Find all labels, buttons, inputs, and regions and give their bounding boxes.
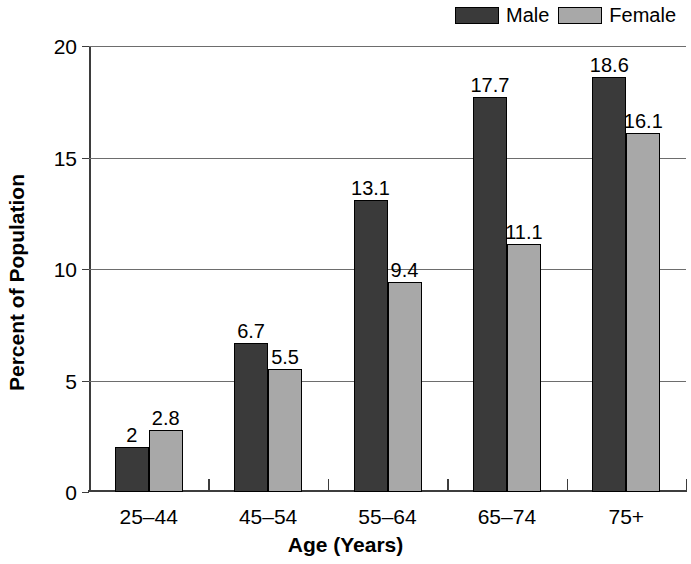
bar-value-label: 2.8 <box>152 408 180 428</box>
legend-swatch-male <box>455 7 499 24</box>
chart-legend: Male Female <box>455 4 676 26</box>
x-axis-tick <box>328 479 329 492</box>
bar-male-0: 2 <box>115 447 149 492</box>
bar-female-0: 2.8 <box>149 430 183 492</box>
bar-value-label: 11.1 <box>505 222 542 242</box>
bar-male-3: 17.7 <box>473 97 507 492</box>
bar-male-2: 13.1 <box>354 200 388 492</box>
x-axis-category-labels: 25–4445–5455–6465–7475+ <box>89 492 686 532</box>
plot-area: 05101520 22.86.75.513.19.417.711.118.616… <box>89 46 686 492</box>
x-axis-tick <box>686 479 687 492</box>
bar-value-label: 6.7 <box>237 321 265 341</box>
y-axis-tick-label: 10 <box>54 259 77 280</box>
bar-value-label: 9.4 <box>391 260 419 280</box>
y-axis-tick <box>82 269 89 270</box>
y-axis-tick-label: 15 <box>54 147 77 168</box>
y-axis-tick <box>82 381 89 382</box>
bar-male-4: 18.6 <box>592 77 626 492</box>
legend-swatch-female <box>558 7 602 24</box>
bar-value-label: 5.5 <box>271 347 299 367</box>
x-axis-title: Age (Years) <box>0 534 691 555</box>
x-axis-tick <box>567 479 568 492</box>
y-axis-tick <box>82 46 89 47</box>
y-axis-tick-label: 0 <box>65 482 77 503</box>
bar-female-1: 5.5 <box>268 369 302 492</box>
bar-value-label: 13.1 <box>351 178 390 198</box>
x-axis-tick <box>89 479 90 492</box>
x-axis-category-label: 55–64 <box>358 506 416 527</box>
x-axis-tick <box>208 479 209 492</box>
legend-entry-female: Female <box>558 5 676 25</box>
x-axis-category-label: 45–54 <box>239 506 297 527</box>
bar-value-label: 18.6 <box>590 55 629 75</box>
legend-label-male: Male <box>506 5 549 25</box>
bar-value-label: 17.7 <box>470 75 509 95</box>
x-axis-category-label: 65–74 <box>478 506 536 527</box>
bar-value-label: 2 <box>126 425 137 445</box>
y-axis-tick-label: 20 <box>54 36 77 57</box>
x-axis-category-label: 75+ <box>608 506 644 527</box>
y-axis-title-text: Percent of Population <box>6 173 27 390</box>
legend-entry-male: Male <box>455 5 549 25</box>
bar-chart: Male Female 05101520 22.86.75.513.19.417… <box>0 0 691 564</box>
x-axis-category-label: 25–44 <box>119 506 177 527</box>
y-axis-tick <box>82 158 89 159</box>
bar-female-3: 11.1 <box>507 244 541 492</box>
y-axis-tick-label: 5 <box>65 370 77 391</box>
y-axis-tick <box>82 492 89 493</box>
legend-label-female: Female <box>609 5 676 25</box>
x-axis-tick <box>447 479 448 492</box>
gridline <box>89 46 686 47</box>
bar-male-1: 6.7 <box>234 343 268 492</box>
y-axis-title: Percent of Population <box>0 0 32 564</box>
bar-female-2: 9.4 <box>388 282 422 492</box>
bar-value-label: 16.1 <box>624 111 663 131</box>
bar-female-4: 16.1 <box>626 133 660 492</box>
